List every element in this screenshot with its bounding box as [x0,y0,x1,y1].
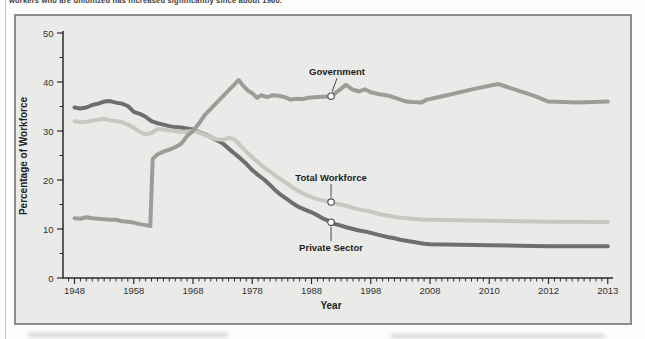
x-tick-label: 1958 [123,285,144,296]
callout-marker [328,199,334,205]
line-chart: 0102030405019481958196819781988199820082… [0,0,645,339]
scanned-page: workers who are unionized has increased … [0,0,645,339]
x-tick-label: 1968 [182,285,203,296]
series-label-private-sector: Private Sector [299,242,363,253]
x-tick-label: 1948 [64,285,85,296]
x-tick-label: 2010 [479,285,500,296]
y-tick-label: 10 [43,224,54,235]
callout-marker [328,219,334,225]
callout-line [332,78,337,92]
y-tick-label: 0 [48,273,53,284]
cropped-bottom-text-blur [28,333,228,337]
x-tick-label: 1978 [242,285,263,296]
series-label-government: Government [309,66,366,77]
y-tick-label: 30 [43,126,54,137]
x-tick-label: 1998 [360,285,381,296]
y-tick-label: 50 [43,28,54,39]
x-tick-label: 2013 [597,285,618,296]
x-tick-label: 1988 [301,285,322,296]
series-label-total-workforce: Total Workforce [295,172,366,183]
x-tick-label: 2012 [538,285,559,296]
x-tick-label: 2008 [419,285,440,296]
cropped-bottom-text-blur [390,334,605,338]
callout-marker [328,93,334,99]
y-axis-title: Percentage of Workforce [18,97,29,215]
series-line-total-workforce [75,119,608,222]
y-tick-label: 20 [43,175,54,186]
x-axis-title: Year [320,300,341,311]
y-tick-label: 40 [43,77,54,88]
